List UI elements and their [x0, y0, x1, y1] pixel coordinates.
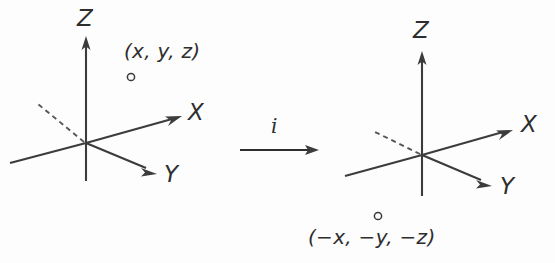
left-y-axis-arrowhead	[141, 168, 157, 177]
left-negative-x-axis-dashed	[38, 104, 84, 142]
left-y-axis-label: Y	[164, 163, 178, 186]
inversion-operator-label: i	[271, 116, 277, 136]
right-point-coordinate-label: (−x, −y, −z)	[308, 227, 436, 247]
right-negative-y-axis-line	[345, 155, 422, 176]
left-z-axis-label: Z	[77, 7, 93, 30]
left-negative-y-axis-line	[10, 143, 86, 163]
right-x-axis-arrowhead	[496, 130, 513, 140]
left-point-coordinate-label: (x, y, z)	[124, 41, 200, 61]
right-y-axis-label: Y	[500, 175, 514, 198]
left-y-axis-line	[86, 143, 146, 168]
inversion-symmetry-figure: Z X Y (x, y, z) i Z X Y (−x, −y, −z)	[0, 0, 555, 263]
right-axes-group	[345, 51, 513, 220]
left-point-marker-circle	[127, 73, 134, 80]
right-y-axis-line	[422, 155, 481, 180]
right-x-axis-line	[422, 132, 503, 155]
right-z-axis-label: Z	[413, 19, 429, 42]
right-negative-x-axis-dashed	[373, 131, 420, 154]
left-x-axis-label: X	[188, 101, 204, 124]
right-x-axis-label: X	[521, 113, 537, 136]
right-point-marker-circle	[374, 212, 381, 219]
right-y-axis-arrowhead	[476, 180, 492, 189]
figure-canvas	[0, 0, 555, 263]
left-x-axis-line	[86, 119, 172, 143]
operator-arrow-group	[240, 145, 319, 155]
